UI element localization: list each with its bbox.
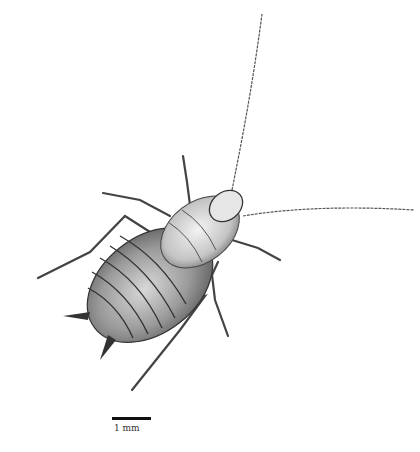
cercus-right (100, 335, 116, 360)
antenna-left (232, 14, 262, 190)
antenna-right (243, 208, 414, 216)
scale-bar-label: 1 mm (114, 423, 140, 433)
cockroach-illustration (0, 0, 420, 452)
cercus-left (63, 312, 90, 320)
scale-bar (112, 417, 151, 420)
